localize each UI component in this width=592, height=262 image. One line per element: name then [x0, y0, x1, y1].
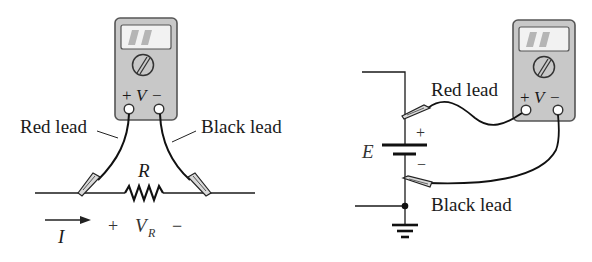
selector-dial-icon	[133, 55, 154, 76]
vr-subscript: R	[147, 226, 156, 240]
meter-plus-label: +	[520, 88, 530, 107]
black-lead-clip-icon	[403, 176, 432, 187]
vr-label: V	[135, 215, 149, 236]
black-lead-wire	[160, 114, 190, 180]
right-panel: + V − E + −	[355, 20, 575, 237]
left-panel: + V − R Red lead Black lead	[20, 18, 282, 247]
black-lead-label: Black lead	[431, 194, 512, 215]
red-lead-label: Red lead	[431, 79, 499, 100]
red-lead-wire	[428, 102, 522, 125]
positive-terminal	[124, 104, 134, 114]
current-label: I	[57, 226, 66, 247]
junction-dot	[402, 203, 409, 210]
vr-plus-sign: +	[108, 216, 118, 236]
positive-terminal	[521, 105, 531, 115]
vr-minus-sign: −	[172, 216, 182, 236]
red-lead-label: Red lead	[20, 116, 88, 137]
current-arrow-icon	[45, 216, 91, 224]
battery-label: E	[361, 141, 374, 162]
diagram-canvas: + V − R Red lead Black lead	[0, 0, 592, 262]
meter-plus-label: +	[122, 86, 132, 105]
left-multimeter: + V −	[115, 18, 177, 120]
red-lead-wire	[98, 114, 129, 180]
battery-icon	[382, 145, 427, 154]
black-lead-pointer	[172, 131, 196, 142]
black-lead-label: Black lead	[201, 116, 282, 137]
meter-minus-label: −	[550, 88, 560, 107]
meter-minus-label: −	[152, 86, 162, 105]
selector-dial-icon	[534, 57, 555, 78]
resistor-label: R	[137, 160, 150, 181]
top-wire	[362, 72, 405, 145]
ground-icon	[392, 225, 418, 237]
red-lead-clip-icon	[402, 105, 430, 119]
resistor-icon	[125, 186, 163, 200]
negative-terminal	[553, 105, 563, 115]
battery-minus-sign: −	[417, 156, 426, 173]
battery-plus-sign: +	[416, 124, 425, 141]
red-lead-pointer	[97, 131, 118, 138]
negative-terminal	[154, 104, 164, 114]
right-multimeter: + V −	[513, 20, 575, 121]
